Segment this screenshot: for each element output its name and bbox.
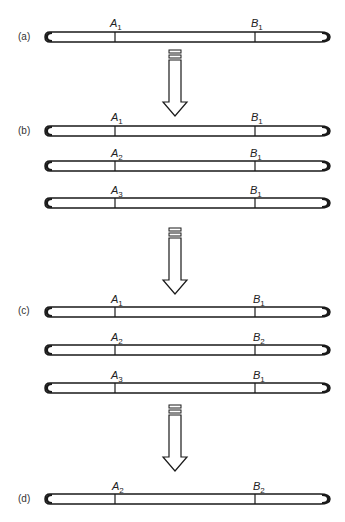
locus-a: A2 (111, 147, 123, 162)
locus-b: B1 (253, 369, 265, 384)
locus-b: B1 (250, 147, 262, 162)
panel-label-a: (a) (18, 31, 30, 42)
locus-a: A2 (112, 480, 124, 495)
panel-label-d: (d) (18, 493, 30, 504)
panel-label-b: (b) (18, 125, 30, 136)
chromosome-a1 (45, 32, 330, 42)
locus-a: A3 (111, 184, 123, 199)
locus-a: A3 (111, 369, 123, 384)
diagram-canvas (0, 0, 345, 522)
panel-label-c: (c) (18, 305, 30, 316)
locus-b: B2 (253, 480, 265, 495)
arrow-icon (163, 50, 187, 116)
arrow-icon (163, 228, 187, 294)
locus-a: A1 (110, 17, 122, 32)
locus-b: B1 (253, 293, 265, 308)
locus-b: B2 (253, 331, 265, 346)
locus-b: B1 (251, 111, 263, 126)
locus-b: B1 (250, 184, 262, 199)
locus-a: A1 (111, 293, 123, 308)
locus-a: A2 (111, 331, 123, 346)
locus-b: B1 (251, 17, 263, 32)
arrow-icon (163, 405, 187, 471)
locus-a: A1 (111, 111, 123, 126)
